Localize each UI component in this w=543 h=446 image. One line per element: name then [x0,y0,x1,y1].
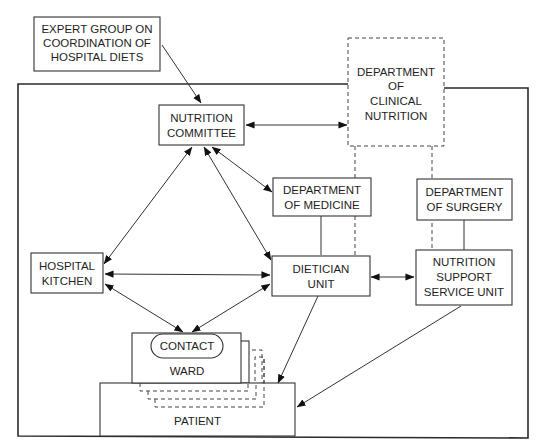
arrow-committee-kitchen [104,147,192,264]
arrow-committee-medicine [212,147,272,192]
dietician-unit-line-1: DIETICIAN [293,263,350,275]
hospital-kitchen-line-1: HOSPITAL [39,260,96,272]
arrow-dietician-to-patient [278,296,318,383]
arrow-dietician-contact [192,284,270,332]
clinical-nutrition-line-3: CLINICAL [370,95,422,107]
expert-group-line-1: EXPERT GROUP ON [41,23,152,35]
ward-label: WARD [170,365,205,377]
dept-medicine-node: DEPARTMENT OF MEDICINE [273,178,371,216]
dept-surgery-line-1: DEPARTMENT [425,186,503,198]
dept-surgery-line-2: OF SURGERY [427,201,503,213]
arrow-nssu-to-patient [297,306,461,407]
nssu-line-1: NUTRITION [433,256,496,268]
dietician-unit-node: DIETICIAN UNIT [272,256,370,296]
arrow-kitchen-contact [105,284,183,332]
dietician-unit-line-2: UNIT [308,278,335,290]
arrow-kitchen-dietician [105,274,270,275]
patient-label: PATIENT [174,415,221,427]
clinical-nutrition-node: DEPARTMENT OF CLINICAL NUTRITION [348,38,444,146]
nutrition-committee-line-2: COMMITTEE [167,127,236,139]
clinical-nutrition-line-1: DEPARTMENT [357,66,435,78]
clinical-nutrition-line-4: NUTRITION [365,110,428,122]
contact-label: CONTACT [160,340,215,352]
dept-surgery-node: DEPARTMENT OF SURGERY [417,179,512,220]
nutrition-organisation-diagram: EXPERT GROUP ON COORDINATION OF HOSPITAL… [0,0,543,446]
patient-node: PATIENT [100,383,295,436]
expert-group-line-2: COORDINATION OF [43,37,151,49]
arrow-committee-dietician [204,147,271,260]
nutrition-committee-node: NUTRITION COMMITTEE [159,105,244,145]
arrow-expert-to-committee [162,45,201,103]
nutrition-committee-line-1: NUTRITION [170,112,233,124]
hospital-kitchen-line-2: KITCHEN [42,275,92,287]
clinical-nutrition-line-2: OF [388,80,404,92]
contact-node: CONTACT [151,334,223,358]
nssu-line-3: SERVICE UNIT [424,286,504,298]
hospital-kitchen-node: HOSPITAL KITCHEN [31,253,103,293]
expert-group-line-3: HOSPITAL DIETS [51,51,144,63]
nssu-node: NUTRITION SUPPORT SERVICE UNIT [416,250,512,305]
dept-medicine-line-2: OF MEDICINE [284,199,360,211]
expert-group-node: EXPERT GROUP ON COORDINATION OF HOSPITAL… [34,17,160,71]
dept-medicine-line-1: DEPARTMENT [283,184,361,196]
nssu-line-2: SUPPORT [436,271,491,283]
